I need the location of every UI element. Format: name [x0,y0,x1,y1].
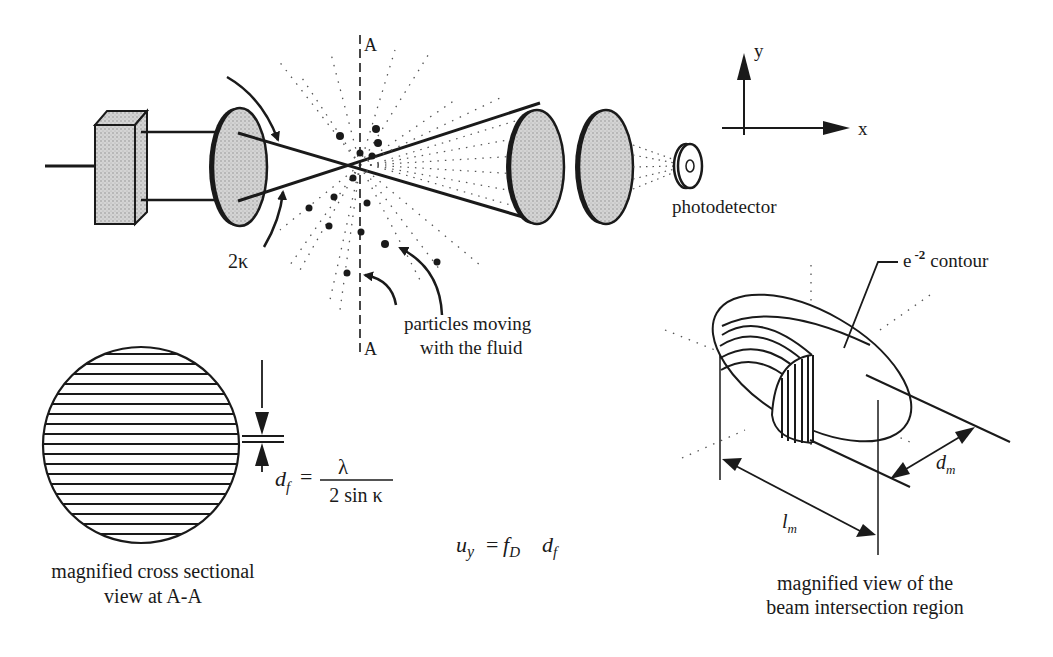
svg-text:2 sin κ: 2 sin κ [329,484,382,506]
cross-section-caption-line2: view at A-A [104,585,202,607]
particles-label-line1: particles moving [404,313,532,334]
svg-text:df: df [542,532,559,560]
beam-lower-converging [238,103,540,201]
fringe-spacing-formula: df = λ 2 sin κ [275,455,393,506]
contour-label: e-2contour [903,247,989,271]
intersection-caption-line1: magnified view of the [777,572,953,595]
particle-arrow-2 [400,248,442,315]
photodetector-icon [674,144,702,188]
lda-diagram: A A particles moving with the fluid 2κ [0,0,1053,657]
probe-width-label: dm [936,451,955,477]
svg-text:=: = [486,532,498,557]
velocity-formula: uy = fD df [456,532,559,561]
focused-light-to-detector [633,145,675,189]
intersection-caption-line2: beam intersection region [766,596,964,619]
beam-splitter-icon [95,111,147,224]
focusing-lens-icon [209,108,267,226]
probe-width-dimension [890,427,975,479]
svg-text:=: = [300,464,312,489]
coordinate-axes [722,53,850,135]
section-label-bottom: A [364,339,377,359]
angle-arrow-bottom [264,192,283,247]
fringe-spacing-dimension [242,360,284,472]
axis-y-label: y [754,40,764,61]
cross-section-caption-line1: magnified cross sectional [51,560,255,583]
fringe-cross-section [40,347,245,543]
receiving-lens-1-icon [506,110,564,224]
radial-scatter-lines [278,50,500,310]
photodetector-label: photodetector [672,196,777,217]
receiving-lens-2-icon [575,110,633,224]
angle-label: 2κ [228,250,248,272]
measurement-volume [665,265,1010,555]
svg-text:λ: λ [338,455,349,479]
particles-label-line2: with the fluid [420,337,523,358]
particle-arrow-1 [365,275,396,305]
section-label-top: A [364,35,377,55]
svg-text:df: df [275,466,292,495]
svg-text:fD: fD [503,532,520,560]
probe-length-dimension [722,458,876,537]
axis-x-label: x [858,118,868,139]
particles [306,125,441,277]
svg-text:uy: uy [456,532,475,561]
probe-length-label: lm [782,510,797,536]
beam-upper-converging [238,133,540,222]
